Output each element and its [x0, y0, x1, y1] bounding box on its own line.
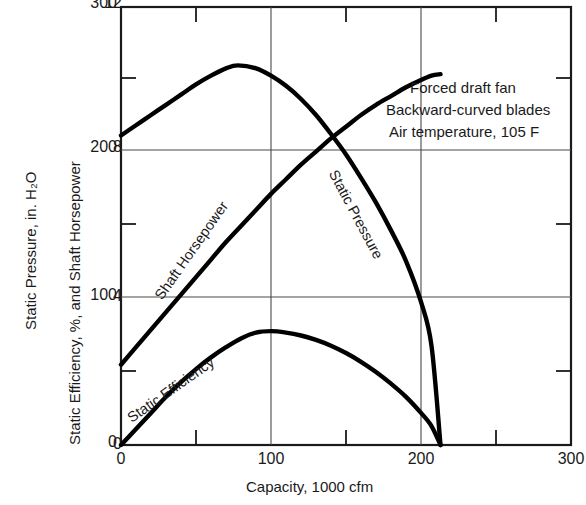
annotation-line-2: Backward-curved blades: [386, 100, 550, 120]
annotation-line-1: Forced draft fan: [410, 78, 516, 98]
x-axis-title: Capacity, 1000 cfm: [246, 478, 373, 495]
grid-vertical: [271, 7, 421, 445]
chart-figure: 12 8 4 0 Static Pressure, in. H₂O Static…: [0, 0, 586, 505]
annotation-line-3: Air temperature, 105 F: [389, 122, 539, 142]
x-axis-minor-ticks: [196, 430, 496, 445]
y-secondary-tick-200: 200: [61, 138, 117, 156]
x-tick-0: 0: [101, 450, 141, 468]
y-secondary-tick-0: 0: [61, 433, 117, 451]
plot-canvas: [0, 0, 586, 505]
x-axis-top-minor-ticks: [196, 7, 496, 22]
y-axis-right-minor-ticks: [556, 78, 571, 371]
x-tick-100: 100: [246, 450, 296, 468]
y-axis-minor-ticks: [121, 78, 136, 371]
y-secondary-tick-100: 100: [61, 286, 117, 304]
x-tick-300: 300: [546, 450, 586, 468]
grid-horizontal: [121, 150, 571, 297]
x-tick-200: 200: [396, 450, 446, 468]
y-secondary-tick-300: 300: [61, 0, 117, 12]
